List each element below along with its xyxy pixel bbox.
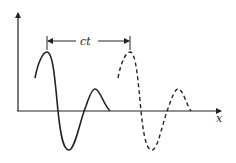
wave-diagram: x ct <box>0 0 236 163</box>
x-axis-label: x <box>216 112 223 125</box>
pulse-at-t <box>118 52 191 150</box>
displacement-marker: ct <box>47 35 130 50</box>
pulse-at-t0 <box>35 52 110 150</box>
displacement-label: ct <box>80 35 91 48</box>
